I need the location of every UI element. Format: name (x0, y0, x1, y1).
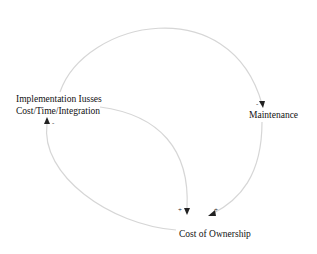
causal-links (0, 0, 317, 254)
arrowhead-icon (259, 101, 265, 108)
link-maint-to-cost (212, 122, 262, 214)
node-label-line1: Implementation Iusses (16, 93, 102, 105)
link-impl-to-cost (100, 107, 187, 208)
arrowhead-icon (184, 208, 190, 215)
node-implementation-issues: Implementation Iusses Cost/Time/Integrat… (16, 93, 102, 117)
link-cost-to-impl (47, 124, 176, 230)
polarity-cost-impl: - (52, 120, 54, 127)
node-maintenance: Maintenance (249, 109, 298, 121)
node-label-line2: Cost/Time/Integration (16, 105, 102, 117)
node-cost-of-ownership: Cost of Ownership (179, 228, 251, 240)
arrowhead-icon (44, 117, 50, 124)
polarity-impl-cost: + (178, 207, 182, 214)
polarity-maint-cost: + (214, 207, 218, 214)
polarity-impl-maint: - (256, 101, 258, 108)
